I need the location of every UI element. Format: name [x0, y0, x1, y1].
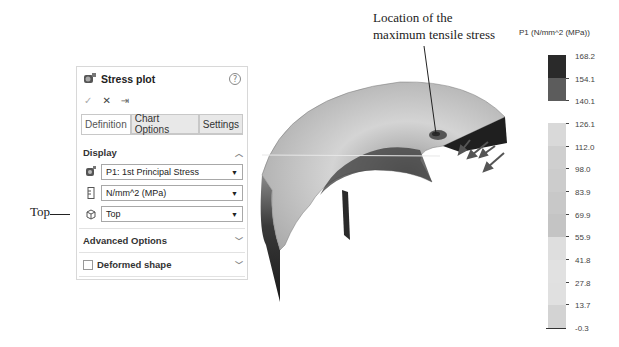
component-select[interactable]: P1: 1st Principal Stress ▼ — [101, 164, 243, 180]
cancel-button[interactable]: ✕ — [102, 95, 110, 106]
ok-button[interactable]: ✓ — [84, 95, 92, 106]
units-value: N/mm^2 (MPa) — [106, 188, 231, 198]
deformed-shape-label: Deformed shape — [97, 259, 235, 270]
legend-value: -0.3 — [575, 324, 589, 333]
dropdown-caret-icon: ▼ — [231, 169, 238, 176]
legend-tick — [566, 236, 569, 237]
annotation-line-1: Location of the — [373, 9, 495, 26]
display-section-header[interactable]: Display ︿ — [81, 142, 243, 162]
annotation-top-leader-line — [50, 214, 70, 215]
stress-plot-icon — [83, 70, 97, 89]
legend-value: 168.2 — [575, 52, 595, 61]
legend-value: 41.8 — [575, 256, 591, 265]
advanced-options-label: Advanced Options — [83, 235, 235, 246]
units-row: N/mm^2 (MPa) ▼ — [81, 183, 243, 203]
legend-tick — [566, 191, 569, 192]
units-icon — [81, 187, 101, 199]
legend-segment — [548, 169, 566, 192]
chevron-down-icon[interactable]: ﹀ — [235, 235, 243, 246]
chevron-up-icon[interactable]: ︿ — [235, 147, 243, 158]
legend-value: 27.8 — [575, 279, 591, 288]
legend-tick — [566, 123, 569, 124]
legend-segment — [548, 305, 566, 328]
legend-segment — [548, 123, 566, 146]
legend-segment — [548, 78, 566, 101]
legend-segment — [548, 237, 566, 260]
deformed-shape-checkbox[interactable] — [83, 260, 93, 270]
chevron-down-icon[interactable]: ﹀ — [235, 259, 243, 270]
legend-color-bar — [548, 55, 566, 328]
legend-segment — [548, 260, 566, 283]
dropdown-caret-icon: ▼ — [231, 211, 238, 218]
legend-segment — [548, 283, 566, 306]
dropdown-caret-icon: ▼ — [231, 190, 238, 197]
tab-definition[interactable]: Definition — [81, 114, 131, 134]
panel-tabs: Definition Chart Options Settings — [81, 114, 243, 134]
legend-baseline — [546, 328, 566, 329]
panel-title: Stress plot — [101, 73, 229, 85]
advanced-options-section: Advanced Options ﹀ — [77, 229, 247, 252]
legend-segment — [548, 101, 566, 124]
tab-content-border — [81, 134, 243, 142]
legend-tick — [566, 304, 569, 305]
legend-tick — [566, 78, 569, 79]
legend-value: 126.1 — [575, 120, 595, 129]
component-row: P1: 1st Principal Stress ▼ — [81, 162, 243, 182]
component-value: P1: 1st Principal Stress — [106, 167, 231, 177]
legend-segment — [548, 192, 566, 215]
legend-title: P1 (N/mm^2 (MPa)) — [519, 28, 590, 37]
legend-value: 154.1 — [575, 75, 595, 84]
inner-wall — [342, 190, 350, 240]
legend-value: 98.0 — [575, 165, 591, 174]
legend-tick — [566, 146, 569, 147]
legend-value: 55.9 — [575, 233, 591, 242]
legend-segment — [548, 146, 566, 169]
stress-model-viewport[interactable] — [250, 60, 540, 340]
deformed-shape-header[interactable]: Deformed shape ﹀ — [81, 253, 243, 276]
annotation-line-2: maximum tensile stress — [373, 26, 495, 43]
legend-tick — [566, 214, 569, 215]
units-select[interactable]: N/mm^2 (MPa) ▼ — [101, 185, 243, 201]
legend-value: 83.9 — [575, 188, 591, 197]
pin-button[interactable]: ⇥ — [121, 95, 129, 106]
legend-value: 112.0 — [575, 143, 594, 152]
stress-component-icon — [81, 166, 101, 178]
deformed-shape-section: Deformed shape ﹀ — [77, 253, 247, 276]
legend-value: 140.1 — [575, 97, 595, 106]
legend-segment — [548, 214, 566, 237]
panel-actions: ✓ ✕ ⇥ — [77, 91, 247, 109]
tab-settings[interactable]: Settings — [199, 114, 243, 134]
legend-value: 13.7 — [575, 301, 591, 310]
legend-segment — [548, 55, 566, 78]
annotation-top-label: Top — [30, 204, 50, 220]
view-value: Top — [106, 209, 231, 219]
view-orientation-icon — [81, 208, 101, 220]
divider — [79, 276, 245, 277]
panel-header: Stress plot ? — [77, 67, 247, 91]
advanced-options-header[interactable]: Advanced Options ﹀ — [81, 229, 243, 252]
legend-tick — [566, 282, 569, 283]
view-select[interactable]: Top ▼ — [101, 206, 243, 222]
legend-tick — [566, 259, 569, 260]
annotation-max-stress-location: Location of the maximum tensile stress — [373, 9, 495, 43]
help-icon[interactable]: ? — [229, 73, 241, 85]
legend-tick — [566, 168, 569, 169]
legend-tick — [566, 100, 569, 101]
view-row: Top ▼ — [81, 204, 243, 224]
display-section: Display ︿ P1: 1st Principal Stress ▼ — [77, 142, 247, 224]
stress-plot-panel: Stress plot ? ✓ ✕ ⇥ Definition Chart Opt… — [76, 66, 248, 280]
display-heading: Display — [83, 147, 235, 158]
tab-chart-options[interactable]: Chart Options — [131, 114, 199, 134]
legend-value: 69.9 — [575, 211, 591, 220]
